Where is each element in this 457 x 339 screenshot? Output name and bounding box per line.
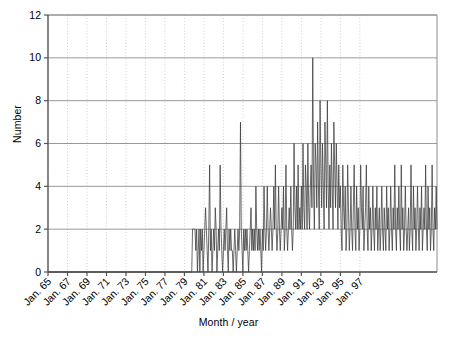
y-tick-label: 4: [35, 180, 41, 192]
y-tick-label: 2: [35, 223, 41, 235]
y-tick-label: 0: [35, 266, 41, 278]
y-tick-label: 6: [35, 137, 41, 149]
y-tick-label: 10: [29, 51, 41, 63]
y-tick-label: 8: [35, 94, 41, 106]
y-tick-label: 12: [29, 9, 41, 21]
figure-container: 024681012Jan. 65Jan. 67Jan. 69Jan. 71Jan…: [0, 0, 457, 339]
chart-plot: 024681012Jan. 65Jan. 67Jan. 69Jan. 71Jan…: [0, 0, 457, 339]
y-axis-title: Number: [11, 84, 23, 164]
x-axis-title: Month / year: [0, 316, 457, 328]
